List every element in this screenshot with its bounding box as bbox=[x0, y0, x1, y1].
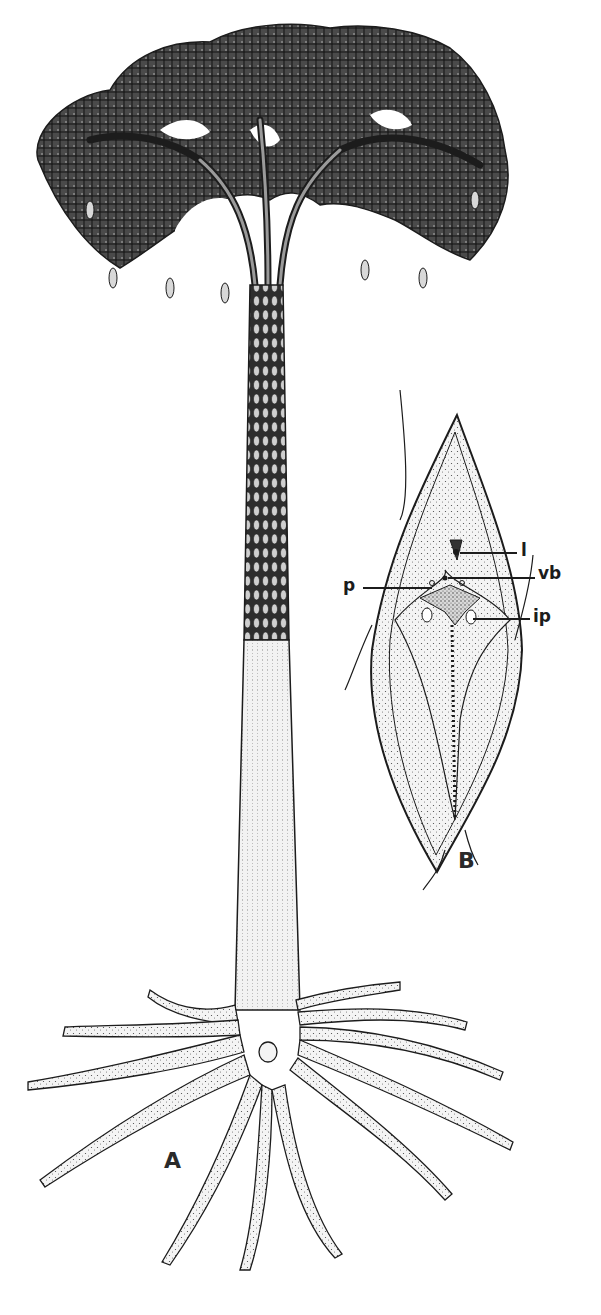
leaf-cushion bbox=[345, 390, 535, 890]
tree-trunk bbox=[235, 285, 300, 1010]
callout-infrafoliar-parichnos: ip bbox=[533, 608, 551, 625]
panel-label-b: B bbox=[458, 850, 475, 872]
callout-parichnos: p bbox=[343, 577, 355, 594]
lycopsid-illustration: l vb p ip B A bbox=[0, 0, 601, 1315]
panel-label-a: A bbox=[164, 1150, 181, 1172]
tree-crown bbox=[37, 24, 508, 303]
callout-vascular-bundle: vb bbox=[538, 565, 561, 582]
callout-ligule: l bbox=[521, 542, 527, 559]
tree-roots bbox=[28, 982, 513, 1270]
